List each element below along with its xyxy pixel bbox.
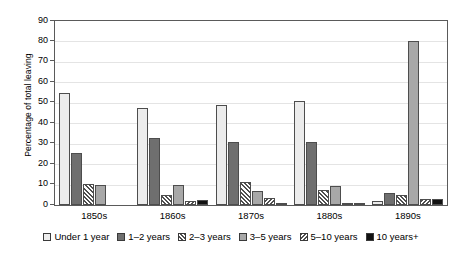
x-axis-label-1880s: 1880s	[290, 210, 368, 221]
legend-label: Under 1 year	[54, 231, 109, 242]
bar[interactable]	[294, 101, 305, 205]
legend-item-3[interactable]: 3–5 years	[239, 231, 292, 242]
bar[interactable]	[372, 201, 383, 205]
bar[interactable]	[137, 108, 148, 205]
legend-swatch-icon	[117, 233, 125, 241]
y-tick-label: 10	[38, 179, 48, 188]
legend-swatch-icon	[239, 233, 247, 241]
bar[interactable]	[264, 198, 275, 205]
legend-swatch-icon	[366, 233, 374, 241]
bar[interactable]	[276, 203, 287, 205]
legend-label: 3–5 years	[250, 231, 292, 242]
legend-item-5[interactable]: 10 years+	[366, 231, 419, 242]
legend-item-1[interactable]: 1–2 years	[117, 231, 170, 242]
legend-item-2[interactable]: 2–3 years	[178, 231, 231, 242]
y-tick-30: 30	[38, 138, 54, 148]
bar[interactable]	[95, 185, 106, 205]
bar[interactable]	[216, 105, 227, 205]
legend-label: 1–2 years	[128, 231, 170, 242]
x-axis-label-1870s: 1870s	[212, 210, 290, 221]
bar[interactable]	[197, 200, 208, 205]
y-tick-50: 50	[38, 97, 54, 107]
bar[interactable]	[354, 203, 365, 205]
y-tick-label: 0	[43, 200, 48, 209]
bar-group-1890s	[369, 21, 447, 205]
y-tick-label: 40	[38, 118, 48, 127]
y-tick-60: 60	[38, 76, 54, 86]
bar[interactable]	[432, 199, 443, 205]
bar[interactable]	[228, 142, 239, 205]
bar-group-1850s	[55, 21, 133, 205]
y-tick-80: 80	[38, 35, 54, 45]
legend-swatch-icon	[178, 233, 186, 241]
bar[interactable]	[330, 186, 341, 205]
bar[interactable]	[252, 191, 263, 205]
y-tick-label: 30	[38, 138, 48, 147]
legend-item-4[interactable]: 5–10 years	[300, 231, 358, 242]
legend-swatch-icon	[43, 233, 51, 241]
y-axis-ticks: 9080706050403020100	[0, 20, 54, 206]
legend: Under 1 year1–2 years2–3 years3–5 years5…	[0, 231, 462, 242]
bar-group-1880s	[290, 21, 368, 205]
bar[interactable]	[240, 182, 251, 206]
bar[interactable]	[384, 193, 395, 205]
bar[interactable]	[318, 190, 329, 205]
legend-label: 2–3 years	[189, 231, 231, 242]
bar[interactable]	[342, 203, 353, 205]
bar[interactable]	[306, 142, 317, 205]
bar[interactable]	[185, 201, 196, 205]
legend-swatch-icon	[300, 233, 308, 241]
y-tick-label: 90	[38, 16, 48, 25]
y-tick-0: 0	[43, 199, 54, 209]
bar[interactable]	[59, 93, 70, 205]
legend-label: 5–10 years	[311, 231, 358, 242]
y-tick-label: 50	[38, 97, 48, 106]
y-tick-90: 90	[38, 15, 54, 25]
y-tick-label: 80	[38, 36, 48, 45]
bar[interactable]	[71, 153, 82, 205]
y-tick-40: 40	[38, 117, 54, 127]
x-axis-label-1860s: 1860s	[133, 210, 211, 221]
legend-item-0[interactable]: Under 1 year	[43, 231, 109, 242]
bar-group-1870s	[212, 21, 290, 205]
bar[interactable]	[396, 195, 407, 205]
x-axis-labels: 1850s1860s1870s1880s1890s	[55, 210, 447, 221]
bar[interactable]	[161, 195, 172, 205]
bar[interactable]	[83, 184, 94, 205]
bar[interactable]	[420, 199, 431, 205]
y-tick-10: 10	[38, 179, 54, 189]
bar-chart: Percentage of total leaving 908070605040…	[0, 0, 462, 253]
bar-group-1860s	[133, 21, 211, 205]
y-tick-label: 20	[38, 159, 48, 168]
x-axis-label-1890s: 1890s	[369, 210, 447, 221]
bar[interactable]	[408, 41, 419, 205]
y-tick-20: 20	[38, 158, 54, 168]
y-tick-70: 70	[38, 56, 54, 66]
bar[interactable]	[173, 185, 184, 205]
y-tick-label: 70	[38, 56, 48, 65]
y-tick-label: 60	[38, 77, 48, 86]
x-axis-label-1850s: 1850s	[55, 210, 133, 221]
bars-layer	[55, 21, 447, 205]
legend-label: 10 years+	[377, 231, 419, 242]
bar[interactable]	[149, 138, 160, 205]
